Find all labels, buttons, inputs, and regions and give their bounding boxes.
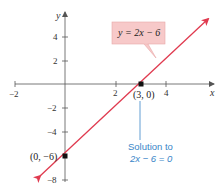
point-y-intercept [63, 154, 68, 159]
y-tick-label: −4 [47, 127, 57, 137]
solution-note-line2: 2x − 6 = 0 [129, 153, 173, 164]
x-axis-label: x [209, 87, 215, 98]
x-tick-label: −2 [9, 89, 19, 99]
graph: −2 2 4 x 4 2 −2 −4 −8 y y = 2x − 6 (3, 0… [0, 0, 224, 192]
y-tick-label: 4 [53, 32, 58, 42]
equation-callout: y = 2x − 6 [112, 22, 165, 58]
point-x-intercept [139, 82, 144, 87]
y-axis-label: y [55, 10, 61, 21]
solution-note-line1: Solution to [128, 141, 173, 152]
y-tick-label: −2 [47, 103, 57, 113]
point-x-intercept-label: (3, 0) [133, 89, 155, 101]
equation-label: y = 2x − 6 [117, 27, 160, 38]
y-tick-label: −8 [47, 175, 57, 185]
point-y-intercept-label: (0, −6) [30, 151, 57, 163]
y-tick-label: 2 [53, 56, 58, 66]
x-tick-label: 2 [113, 88, 118, 98]
x-tick-label: 4 [164, 88, 169, 98]
